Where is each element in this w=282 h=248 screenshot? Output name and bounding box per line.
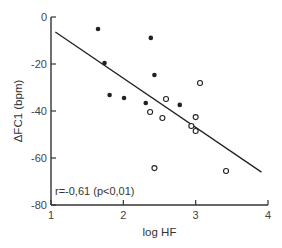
data-point-filled [177,103,182,108]
scatter-chart: 0-20-40-60-801234log HFΔFC1 (bpm)r=-0,61… [0,0,282,248]
data-point-open [189,124,194,129]
data-point-filled [149,36,154,41]
x-tick-label: 4 [265,209,271,221]
x-axis-title: log HF [143,226,177,238]
data-point-filled [96,27,101,32]
chart-canvas: 0-20-40-60-801234log HFΔFC1 (bpm)r=-0,61… [0,0,282,248]
data-point-filled [143,101,148,106]
data-point-filled [107,93,112,98]
data-point-open [164,97,169,102]
y-tick-label: -60 [31,152,47,164]
data-point-filled [102,61,107,66]
data-point-open [193,115,198,120]
data-point-filled [122,96,127,101]
x-tick-label: 2 [120,209,126,221]
data-point-open [224,168,229,173]
data-point-open [152,166,157,171]
x-tick-label: 1 [48,209,54,221]
x-tick-label: 3 [193,209,199,221]
y-tick-label: -80 [31,199,47,211]
y-tick-label: 0 [41,11,47,23]
data-point-open [193,128,198,133]
data-point-open [198,81,203,86]
y-tick-label: -20 [31,58,47,70]
data-point-open [160,116,165,121]
regression-line [55,32,261,172]
y-tick-label: -40 [31,105,47,117]
y-axis-title: ΔFC1 (bpm) [12,80,24,143]
data-point-filled [152,73,157,78]
data-point-open [148,109,153,114]
correlation-annotation: r=-0,61 (p<0,01) [55,185,135,197]
